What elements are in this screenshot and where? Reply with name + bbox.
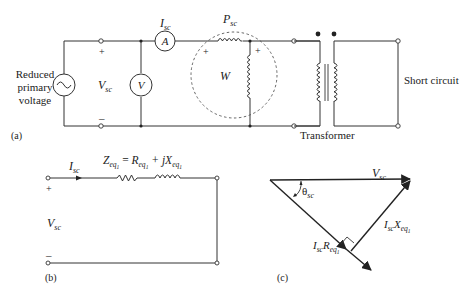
wattmeter-letter: W (220, 69, 231, 83)
isc-direction-arrow (346, 249, 371, 270)
vsc-label-a: Vsc (98, 78, 112, 94)
vsc-label-c: Vsc (372, 166, 386, 182)
panel-b-label: (b) (45, 272, 57, 284)
ac-source-icon (53, 74, 75, 96)
terminal-top (99, 39, 103, 43)
current-arrow-icon (76, 176, 82, 181)
source-label-line-3: voltage (19, 94, 51, 106)
wattmeter-plus-voltage: + (255, 45, 261, 56)
resistor-icon (117, 175, 137, 181)
wattmeter-boundary (191, 32, 277, 118)
source-label-line-1: Reduced (16, 68, 55, 80)
psc-label: Psc (222, 12, 237, 28)
transformer-label: Transformer (300, 129, 355, 141)
panel-a-label: (a) (11, 130, 22, 142)
inductor-icon (155, 175, 180, 178)
isc-xeq-label: IscXeq1 (383, 218, 411, 234)
minus-sign-a: – (98, 112, 105, 124)
plus-sign-b: + (46, 183, 52, 194)
short-circuit-wire (334, 39, 400, 128)
panel-a-circuit: A V (11, 12, 459, 142)
isc-req-label: IscReq1 (312, 239, 340, 255)
wattmeter-plus-current: + (203, 46, 209, 57)
wattmeter-voltage-coil-icon (248, 55, 251, 98)
vsc-phasor (270, 179, 410, 180)
terminal-bottom (99, 124, 103, 128)
transformer-short-circuit-test-figure: A V (0, 0, 472, 294)
minus-sign-b: – (45, 249, 52, 261)
plus-sign-a: + (99, 46, 105, 57)
vsc-label-b: Vsc (47, 216, 61, 232)
panel-c-phasor-diagram: Vsc θsc IscXeq1 IscReq1 (c) (270, 166, 411, 284)
isc-label-b: Isc (68, 159, 80, 175)
right-angle-icon (341, 237, 354, 244)
wattmeter-current-coil-icon (218, 39, 243, 42)
source-label-line-2: primary (18, 81, 53, 93)
transformer-icon (294, 32, 337, 126)
impedance-equation: Zeq1 = Req1 + jXeq1 (103, 154, 182, 170)
isc-xeq-phasor (351, 181, 410, 251)
ammeter-letter: A (161, 35, 169, 47)
theta-label: θsc (302, 185, 314, 200)
panel-b-equivalent-circuit: Isc Zeq1 = Req1 + jXeq1 + – Vsc (b) (45, 154, 219, 284)
short-circuit-label: Short circuit (404, 74, 459, 86)
panel-c-label: (c) (277, 272, 288, 284)
isc-label-a: Isc (159, 16, 171, 32)
